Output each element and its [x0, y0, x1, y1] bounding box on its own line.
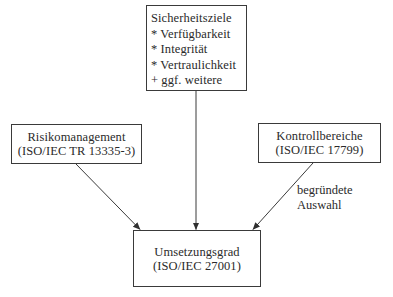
diagram-canvas: Sicherheitsziele * Verfügbarkeit * Integ… — [0, 0, 393, 297]
risk-management-title: Risikomanagement — [27, 130, 125, 144]
goal-availability: * Verfügbarkeit — [151, 27, 246, 43]
goal-further: + ggf. weitere — [151, 73, 246, 89]
justified-selection-label: begründete Auswahl — [297, 183, 353, 213]
security-goals-box: Sicherheitsziele * Verfügbarkeit * Integ… — [146, 5, 247, 91]
control-areas-title: Kontrollbereiche — [276, 129, 362, 143]
security-goals-title: Sicherheitsziele — [151, 11, 246, 27]
implementation-degree-box: Umsetzungsgrad (ISO/IEC 27001) — [133, 230, 261, 287]
arrow-risk-to-result — [76, 164, 140, 230]
risk-management-box: Risikomanagement (ISO/IEC TR 13335-3) — [11, 124, 142, 164]
goal-integrity: * Integrität — [151, 42, 246, 58]
goal-confidentiality: * Vertraulichkeit — [151, 58, 246, 74]
edge-label-line-1: begründete — [297, 183, 353, 198]
control-areas-standard: (ISO/IEC 17799) — [276, 143, 364, 157]
implementation-degree-title: Umsetzungsgrad — [154, 245, 239, 259]
control-areas-box: Kontrollbereiche (ISO/IEC 17799) — [258, 123, 381, 163]
risk-management-standard: (ISO/IEC TR 13335-3) — [18, 144, 136, 158]
edge-label-line-2: Auswahl — [297, 198, 353, 213]
implementation-degree-standard: (ISO/IEC 27001) — [153, 259, 241, 273]
